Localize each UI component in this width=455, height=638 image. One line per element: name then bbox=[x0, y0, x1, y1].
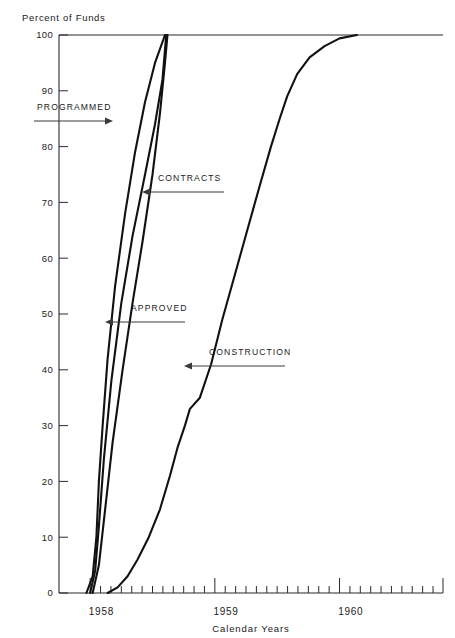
annotation-label-programmed: PROGRAMMED bbox=[37, 102, 112, 112]
y-tick-label: 90 bbox=[42, 85, 53, 96]
y-tick-label: 30 bbox=[42, 420, 53, 431]
y-tick-label: 20 bbox=[42, 476, 53, 487]
x-tick-label: 1960 bbox=[338, 606, 363, 617]
y-axis-title: Percent of Funds bbox=[22, 12, 106, 23]
chart-container: Percent of Funds 0102030405060708090100 … bbox=[0, 0, 455, 638]
x-tick-label: 1958 bbox=[89, 606, 114, 617]
y-tick-label: 50 bbox=[42, 308, 53, 319]
annotation-label-construction: CONSTRUCTION bbox=[209, 347, 291, 357]
y-tick-label: 40 bbox=[42, 364, 53, 375]
cumulative-percent-of-funds-chart: Percent of Funds 0102030405060708090100 … bbox=[0, 0, 455, 638]
x-axis-title: Calendar Years bbox=[212, 623, 290, 634]
annotation-label-contracts: CONTRACTS bbox=[158, 173, 221, 183]
chart-background bbox=[0, 0, 455, 638]
y-tick-label: 100 bbox=[36, 29, 53, 40]
x-tick-label: 1959 bbox=[214, 606, 239, 617]
annotation-label-approved: APPROVED bbox=[131, 303, 188, 313]
y-tick-label: 0 bbox=[47, 587, 53, 598]
y-tick-label: 80 bbox=[42, 141, 53, 152]
y-tick-label: 60 bbox=[42, 253, 53, 264]
y-tick-label: 10 bbox=[42, 532, 53, 543]
y-tick-label: 70 bbox=[42, 197, 53, 208]
